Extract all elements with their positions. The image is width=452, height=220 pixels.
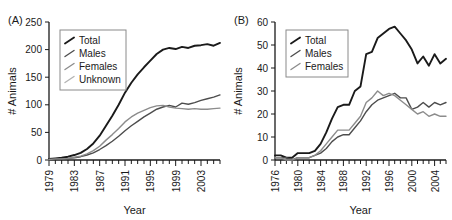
x-tick-label: 2000 xyxy=(407,170,418,193)
panel-b: (B)0102030405060197619801984198819921996… xyxy=(226,0,452,220)
y-tick-label: 100 xyxy=(25,99,42,110)
panel-a: (A)0501001502002501979198319871991199519… xyxy=(0,0,226,220)
y-tick-label: 0 xyxy=(36,155,42,166)
x-tick-label: 1984 xyxy=(316,170,327,193)
y-tick-label: 20 xyxy=(257,109,269,120)
x-tick-label: 2003 xyxy=(196,170,207,193)
legend-label-total: Total xyxy=(79,35,100,46)
x-tick-label: 1976 xyxy=(270,170,281,193)
y-tick-label: 30 xyxy=(257,86,269,97)
legend-label-females: Females xyxy=(305,61,343,72)
x-axis-title: Year xyxy=(123,204,146,216)
y-tick-label: 0 xyxy=(262,155,268,166)
x-tick-label: 1996 xyxy=(384,170,395,193)
x-tick-label: 1980 xyxy=(293,170,304,193)
figure-two-panel-line-charts: (A)0501001502002501979198319871991199519… xyxy=(0,0,452,220)
series-line-males xyxy=(275,93,446,160)
x-tick-label: 1992 xyxy=(361,170,372,193)
y-tick-label: 40 xyxy=(257,63,269,74)
y-tick-label: 200 xyxy=(25,44,42,55)
y-tick-label: 250 xyxy=(25,17,42,28)
x-axis-title: Year xyxy=(349,204,372,216)
x-tick-label: 1995 xyxy=(145,170,156,193)
chart-a: (A)0501001502002501979198319871991199519… xyxy=(0,0,226,220)
y-tick-label: 10 xyxy=(257,132,269,143)
legend-label-unknown: Unknown xyxy=(79,74,121,85)
y-tick-label: 60 xyxy=(257,17,269,28)
series-line-females xyxy=(275,91,446,160)
y-axis-title: # Animals xyxy=(232,67,244,115)
series-line-females xyxy=(49,105,220,159)
x-tick-label: 2004 xyxy=(430,170,441,193)
x-tick-label: 1983 xyxy=(69,170,80,193)
legend-label-males: Males xyxy=(305,48,332,59)
x-tick-label: 1979 xyxy=(44,170,55,193)
y-tick-label: 50 xyxy=(31,127,43,138)
legend-label-total: Total xyxy=(305,35,326,46)
x-tick-label: 1988 xyxy=(338,170,349,193)
chart-b: (B)0102030405060197619801984198819921996… xyxy=(226,0,452,220)
y-tick-label: 50 xyxy=(257,40,269,51)
panel-caption: (B) xyxy=(234,14,249,26)
panel-caption: (A) xyxy=(8,14,23,26)
x-tick-label: 1991 xyxy=(120,170,131,193)
series-line-males xyxy=(49,95,220,160)
legend-label-females: Females xyxy=(79,61,117,72)
y-tick-label: 150 xyxy=(25,72,42,83)
x-tick-label: 1987 xyxy=(95,170,106,193)
y-axis-title: # Animals xyxy=(6,67,18,115)
x-tick-label: 1999 xyxy=(171,170,182,193)
legend-label-males: Males xyxy=(79,48,106,59)
